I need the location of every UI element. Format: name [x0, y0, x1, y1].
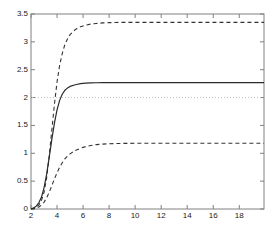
y-tick-label: 1.5 [17, 121, 28, 129]
y-tick-label: 2 [24, 94, 28, 102]
x-tick-label: 10 [125, 212, 145, 220]
x-tick-label: 18 [229, 212, 249, 220]
y-tick-label: 2.5 [17, 66, 28, 74]
plot-border [31, 14, 264, 209]
lower-confidence-bound [31, 143, 264, 209]
x-tick-label: 6 [73, 212, 93, 220]
axes-frame [31, 14, 264, 209]
x-tick-label: 12 [151, 212, 171, 220]
y-tick-label: 1 [24, 149, 28, 157]
tick-marks [31, 14, 264, 209]
x-tick-label: 16 [203, 212, 223, 220]
y-tick-label: 3.5 [17, 10, 28, 18]
x-tick-label: 4 [47, 212, 67, 220]
x-tick-label: 2 [21, 212, 41, 220]
mean-estimate [31, 83, 264, 209]
plot-canvas [0, 0, 278, 238]
x-tick-label: 14 [177, 212, 197, 220]
upper-confidence-bound [31, 22, 264, 209]
chart-figure: 00.511.522.533.5 24681012141618 [0, 0, 278, 238]
x-tick-label: 8 [99, 212, 119, 220]
y-tick-label: 3 [24, 38, 28, 46]
series-lines [31, 22, 264, 209]
y-tick-label: 0.5 [17, 177, 28, 185]
